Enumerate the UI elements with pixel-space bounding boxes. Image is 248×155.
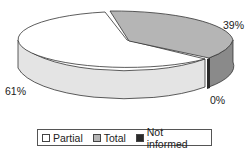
legend-swatch-total — [93, 134, 101, 142]
legend-swatch-not-informed — [136, 134, 144, 142]
legend-label: Not informed — [147, 126, 205, 150]
legend: Partial Total Not informed — [37, 129, 212, 146]
slice-not-informed-side — [207, 58, 210, 89]
legend-label: Total — [104, 132, 126, 144]
label-total: 39% — [223, 19, 244, 31]
legend-swatch-partial — [42, 134, 50, 142]
legend-item-not-informed: Not informed — [136, 126, 205, 150]
legend-label: Partial — [53, 132, 83, 144]
legend-item-total: Total — [93, 132, 126, 144]
legend-item-partial: Partial — [42, 132, 83, 144]
label-not-informed: 0% — [210, 94, 225, 106]
label-partial: 61% — [5, 85, 26, 97]
